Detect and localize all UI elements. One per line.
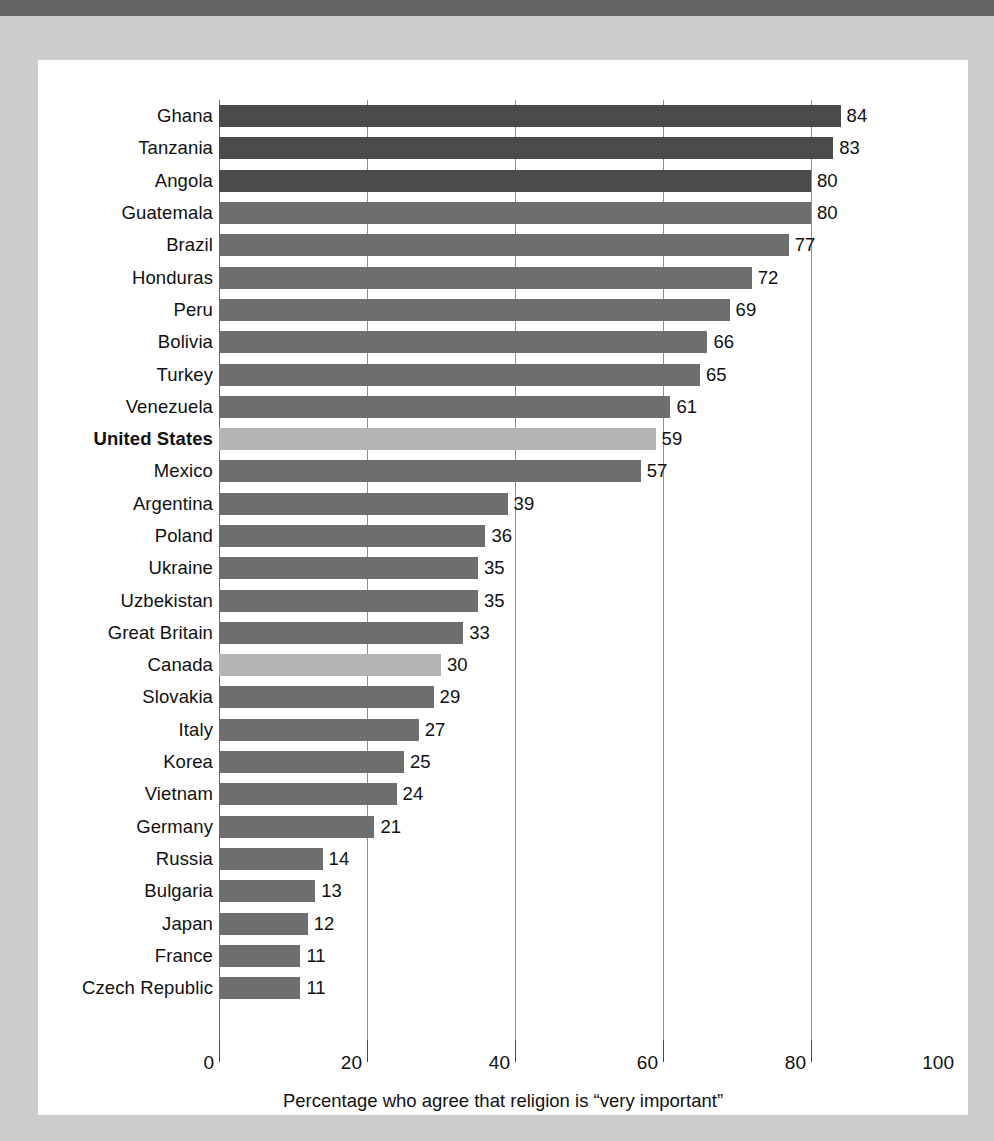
bar (219, 202, 811, 224)
bar-row: Venezuela61 (38, 391, 968, 423)
bar (219, 590, 478, 612)
chart-plot-area: Ghana84Tanzania83Angola80Guatemala80Braz… (38, 60, 968, 1115)
category-label: Guatemala (122, 202, 213, 224)
bar-row: Guatemala80 (38, 197, 968, 229)
bar-track: 14 (219, 848, 959, 870)
x-tick-mark-20 (367, 1040, 368, 1062)
bar-row: Mexico57 (38, 455, 968, 487)
category-label: Mexico (154, 460, 213, 482)
category-label: Korea (163, 751, 213, 773)
bar-track: 29 (219, 686, 959, 708)
bar-value-label: 83 (833, 137, 860, 159)
bar-value-label: 80 (811, 170, 838, 192)
bar (219, 945, 300, 967)
category-label: Russia (156, 848, 213, 870)
bar-track: 24 (219, 783, 959, 805)
bar-value-label: 36 (485, 525, 512, 547)
bar-track: 69 (219, 299, 959, 321)
bar-row: Ghana84 (38, 100, 968, 132)
bar-row: Tanzania83 (38, 132, 968, 164)
x-axis-title: Percentage who agree that religion is “v… (38, 1090, 968, 1112)
bar-track: 59 (219, 428, 959, 450)
bar-row: Italy27 (38, 714, 968, 746)
bar-rows: Ghana84Tanzania83Angola80Guatemala80Braz… (38, 100, 968, 1004)
bar-track: 39 (219, 493, 959, 515)
bar-value-label: 35 (478, 557, 505, 579)
bar-value-label: 13 (315, 880, 342, 902)
page-top-rule (0, 0, 994, 16)
bar (219, 428, 656, 450)
bar-value-label: 14 (323, 848, 350, 870)
bar-track: 72 (219, 267, 959, 289)
bar-value-label: 12 (308, 913, 335, 935)
bar-track: 11 (219, 977, 959, 999)
bar (219, 848, 323, 870)
x-tick-mark-80 (811, 1040, 812, 1062)
bar-track: 21 (219, 816, 959, 838)
bar-value-label: 29 (434, 686, 461, 708)
bar-track: 30 (219, 654, 959, 676)
bar-row: Vietnam24 (38, 778, 968, 810)
category-label: Great Britain (108, 622, 213, 644)
bar-track: 84 (219, 105, 959, 127)
category-label: Honduras (132, 267, 213, 289)
x-tick-mark-0 (219, 1040, 220, 1062)
x-tick-mark-60 (663, 1040, 664, 1062)
bar-row: Angola80 (38, 165, 968, 197)
x-tick-label-80: 80 (785, 1052, 811, 1074)
bar-track: 13 (219, 880, 959, 902)
bar-value-label: 72 (752, 267, 779, 289)
bar-row: Slovakia29 (38, 681, 968, 713)
bar-row: United States59 (38, 423, 968, 455)
category-label: Turkey (157, 364, 213, 386)
bar-row: Canada30 (38, 649, 968, 681)
bar-value-label: 77 (789, 234, 816, 256)
bar (219, 719, 419, 741)
bar (219, 493, 508, 515)
category-label: Venezuela (126, 396, 213, 418)
category-label: Ukraine (149, 557, 213, 579)
bar (219, 267, 752, 289)
bar (219, 816, 374, 838)
figure-card: Ghana84Tanzania83Angola80Guatemala80Braz… (38, 60, 968, 1115)
bar-row: Czech Republic11 (38, 972, 968, 1004)
bar-row: Poland36 (38, 520, 968, 552)
bar-row: Brazil77 (38, 229, 968, 261)
category-label: Uzbekistan (120, 590, 213, 612)
bar-row: Uzbekistan35 (38, 584, 968, 616)
x-axis: 020406080100 (219, 1040, 959, 1084)
bar-row: Turkey65 (38, 358, 968, 390)
bar-row: Ukraine35 (38, 552, 968, 584)
bar-row: Korea25 (38, 746, 968, 778)
bar-track: 35 (219, 590, 959, 612)
category-label: Canada (148, 654, 213, 676)
bar-track: 35 (219, 557, 959, 579)
bar-row: Russia14 (38, 843, 968, 875)
category-label: Bulgaria (144, 880, 213, 902)
bar-value-label: 27 (419, 719, 446, 741)
bar-track: 83 (219, 137, 959, 159)
bar (219, 654, 441, 676)
x-tick-label-100: 100 (922, 1052, 959, 1074)
bar (219, 299, 730, 321)
bar-value-label: 33 (463, 622, 490, 644)
bar (219, 751, 404, 773)
category-label: Germany (136, 816, 213, 838)
bar-track: 80 (219, 202, 959, 224)
bar-row: France11 (38, 940, 968, 972)
category-label: Tanzania (138, 137, 213, 159)
bar-value-label: 35 (478, 590, 505, 612)
category-label: Ghana (157, 105, 213, 127)
bar-value-label: 21 (374, 816, 401, 838)
bar-track: 12 (219, 913, 959, 935)
bar (219, 331, 707, 353)
category-label: France (155, 945, 213, 967)
bar-value-label: 25 (404, 751, 431, 773)
x-tick-label-40: 40 (489, 1052, 515, 1074)
bar-value-label: 80 (811, 202, 838, 224)
bar-value-label: 69 (730, 299, 757, 321)
x-tick-label-20: 20 (341, 1052, 367, 1074)
bar (219, 105, 841, 127)
category-label: Vietnam (145, 783, 213, 805)
bar (219, 686, 434, 708)
